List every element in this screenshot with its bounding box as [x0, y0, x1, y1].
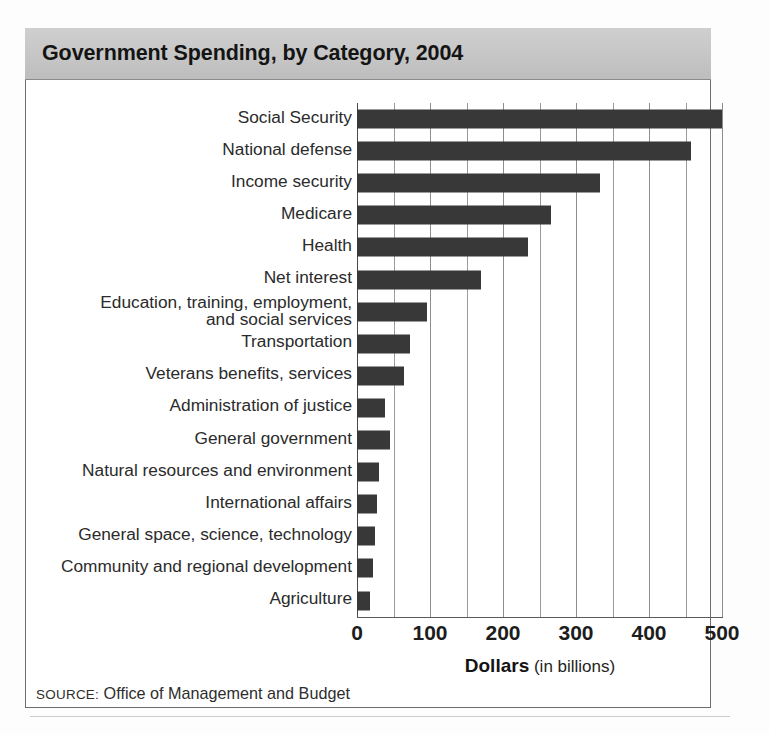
bar-row	[357, 296, 722, 328]
x-tick-0: 0	[351, 621, 363, 645]
bar	[357, 142, 691, 161]
bar	[357, 334, 410, 353]
gridline-500	[722, 103, 723, 617]
category-label: Medicare	[30, 205, 352, 223]
bar-row	[357, 135, 722, 167]
bar	[357, 591, 370, 610]
bar	[357, 463, 379, 482]
bar-row	[357, 199, 722, 231]
x-axis-title-light: (in billions)	[529, 657, 615, 676]
category-label: Community and regional development	[30, 558, 352, 576]
bar-row	[357, 103, 722, 135]
bar-row	[357, 328, 722, 360]
bar	[357, 110, 722, 129]
bar	[357, 527, 375, 546]
category-axis-labels: Social SecurityNational defenseIncome se…	[30, 103, 352, 617]
bar	[357, 559, 373, 578]
page-rule	[30, 716, 730, 717]
plot-area	[357, 103, 722, 617]
title-band: Government Spending, by Category, 2004	[25, 28, 711, 80]
bar-row	[357, 552, 722, 584]
chart-title: Government Spending, by Category, 2004	[42, 41, 463, 66]
category-label: National defense	[30, 141, 352, 159]
bar	[357, 174, 600, 193]
bar	[357, 495, 377, 514]
x-axis-title-strong: Dollars	[465, 655, 529, 676]
x-tick-200: 200	[485, 621, 520, 645]
bar	[357, 431, 390, 450]
bar-row	[357, 264, 722, 296]
x-tick-100: 100	[412, 621, 447, 645]
bar-row	[357, 488, 722, 520]
x-tick-500: 500	[704, 621, 739, 645]
category-label: Agriculture	[30, 590, 352, 608]
category-label: Net interest	[30, 269, 352, 287]
source-label: SOURCE:	[36, 687, 99, 702]
category-label: Income security	[30, 173, 352, 191]
category-label: Social Security	[30, 109, 352, 127]
figure-container: Government Spending, by Category, 2004 S…	[0, 0, 769, 735]
category-label: Administration of justice	[30, 397, 352, 415]
bar-row	[357, 392, 722, 424]
bar-row	[357, 424, 722, 456]
bar	[357, 366, 404, 385]
category-label: General space, science, technology	[30, 526, 352, 544]
category-label: Health	[30, 237, 352, 255]
category-label: Veterans benefits, services	[30, 365, 352, 383]
bar-row	[357, 231, 722, 263]
category-label: Education, training, employment, and soc…	[30, 294, 352, 329]
category-label: International affairs	[30, 494, 352, 512]
bar-row	[357, 456, 722, 488]
bar	[357, 302, 427, 321]
bar	[357, 206, 551, 225]
bar-row	[357, 585, 722, 617]
source-value: Office of Management and Budget	[99, 684, 350, 702]
bar-row	[357, 167, 722, 199]
bar	[357, 270, 481, 289]
x-tick-400: 400	[631, 621, 666, 645]
x-axis-title: Dollars (in billions)	[357, 655, 723, 677]
x-axis-line	[357, 617, 723, 618]
category-label: General government	[30, 430, 352, 448]
bar	[357, 238, 528, 257]
bar	[357, 398, 385, 417]
category-label: Natural resources and environment	[30, 462, 352, 480]
bar-row	[357, 520, 722, 552]
category-label: Transportation	[30, 333, 352, 351]
bar-row	[357, 360, 722, 392]
x-tick-300: 300	[558, 621, 593, 645]
source-note: SOURCE: Office of Management and Budget	[36, 684, 350, 703]
